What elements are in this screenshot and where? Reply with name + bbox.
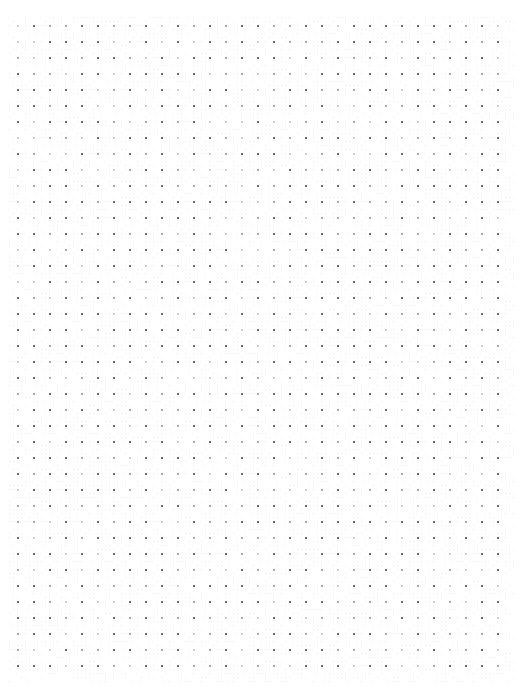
grid-dot [433,585,435,587]
grid-dot [337,393,339,395]
grid-dot [177,25,179,27]
grid-dot [113,41,115,43]
grid-dot [337,233,339,235]
grid-dot [289,265,291,267]
grid-dot [433,617,435,619]
grid-dot [193,201,195,203]
grid-dot [433,457,435,459]
grid-dot [417,649,419,651]
grid-dot [49,25,51,27]
grid-dot [353,505,355,507]
grid-dot [273,185,275,187]
grid-dot [481,521,483,523]
grid-dot [369,121,371,123]
grid-dot [353,393,355,395]
grid-dot [465,585,467,587]
grid-dot [417,425,419,427]
grid-dot [145,361,147,363]
grid-dot [113,505,115,507]
grid-dot [225,121,227,123]
grid-dot [305,217,307,219]
grid-dot [353,41,355,43]
grid-dot [81,521,83,523]
grid-dot [273,265,275,267]
grid-dot [273,201,275,203]
grid-dot [97,121,99,123]
grid-dot [417,281,419,283]
grid-dot [401,393,403,395]
grid-dot [369,89,371,91]
grid-dot [193,345,195,347]
grid-dot [497,505,499,507]
grid-dot [369,537,371,539]
grid-dot [433,281,435,283]
grid-dot [321,41,323,43]
grid-dot [337,105,339,107]
grid-dot [209,553,211,555]
grid-dot [273,153,275,155]
grid-dot [337,297,339,299]
grid-dot [385,105,387,107]
grid-dot [161,553,163,555]
grid-dot [321,169,323,171]
grid-dot [337,553,339,555]
grid-dot [225,489,227,491]
grid-dot [145,441,147,443]
grid-dot [161,89,163,91]
grid-dot [289,121,291,123]
grid-dot [161,665,163,667]
grid-dot [497,185,499,187]
grid-dot [305,569,307,571]
grid-dot [209,393,211,395]
grid-dot [353,57,355,59]
grid-dot [49,41,51,43]
grid-dot [481,153,483,155]
grid-dot [81,265,83,267]
grid-dot [209,105,211,107]
grid-dot [385,665,387,667]
grid-dot [433,393,435,395]
grid-dot [33,377,35,379]
grid-dot [65,105,67,107]
grid-dot [497,169,499,171]
grid-dot [49,393,51,395]
grid-dot [401,201,403,203]
grid-dot [353,649,355,651]
grid-dot [113,601,115,603]
grid-dot [49,665,51,667]
grid-dot [321,265,323,267]
grid-dot [497,345,499,347]
grid-dot [305,345,307,347]
grid-dot [241,89,243,91]
grid-dot [209,361,211,363]
grid-dot [273,297,275,299]
grid-dot [465,89,467,91]
grid-dot [273,377,275,379]
grid-dot [33,585,35,587]
grid-dot [369,601,371,603]
grid-dot [273,425,275,427]
grid-dot [497,217,499,219]
grid-dot [177,329,179,331]
grid-dot [305,441,307,443]
grid-dot [209,137,211,139]
grid-dot [241,585,243,587]
grid-dot [481,409,483,411]
grid-dot [481,617,483,619]
grid-dot [273,409,275,411]
grid-dot [129,393,131,395]
grid-dot [193,489,195,491]
grid-dot [353,137,355,139]
grid-dot [177,489,179,491]
grid-dot [193,553,195,555]
grid-dot [161,649,163,651]
grid-dot [145,489,147,491]
grid-dot [401,329,403,331]
grid-dot [241,393,243,395]
grid-dot [273,617,275,619]
grid-dot [321,25,323,27]
grid-dot [433,633,435,635]
grid-dot [449,409,451,411]
grid-dot [305,409,307,411]
grid-dot [337,505,339,507]
